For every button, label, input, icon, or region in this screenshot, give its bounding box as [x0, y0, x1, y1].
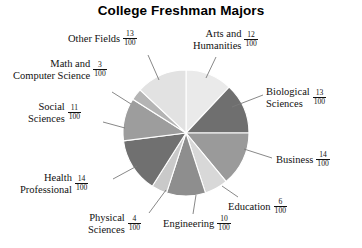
- slice-label-education: Education 6 100: [228, 198, 287, 215]
- pie-slices-group: [123, 70, 249, 196]
- slice-value-biological-sciences: 13 100: [313, 89, 326, 106]
- slice-value-other-fields: 13 100: [123, 30, 136, 47]
- slice-label-education-text: Education: [228, 201, 271, 213]
- slice-label-social-sciences-text: Social Sciences: [28, 101, 65, 124]
- slice-label-arts-and-humanities-text: Arts and Humanities: [193, 28, 241, 51]
- leader-line-math-and-computer-science: [112, 92, 131, 104]
- slice-value-health-professional: 14 100: [75, 175, 88, 192]
- slice-label-health-professional: Health Professional 14 100: [20, 172, 88, 195]
- leader-line-social-sciences: [103, 122, 125, 128]
- slice-value-arts-and-humanities: 12 100: [244, 31, 257, 48]
- slice-label-physical-sciences-text: Physical Sciences: [88, 212, 125, 235]
- slice-label-other-fields: Other Fields 13 100: [68, 30, 137, 47]
- leader-line-health-professional: [113, 166, 137, 179]
- slice-label-engineering: Engineering 10 100: [163, 215, 231, 232]
- slice-label-physical-sciences: Physical Sciences 4 100: [88, 212, 141, 235]
- slice-label-arts-and-humanities: Arts and Humanities 12 100: [193, 28, 258, 51]
- pie-chart-screenshot: College Freshman Majors Other Fields 13 …: [0, 0, 362, 248]
- leader-line-engineering: [193, 195, 196, 214]
- slice-label-biological-sciences-text: Biological Sciences: [266, 86, 310, 109]
- leader-line-business: [244, 149, 272, 158]
- slice-label-engineering-text: Engineering: [163, 218, 214, 230]
- slice-label-business-text: Business: [276, 154, 313, 166]
- leader-line-education: [222, 186, 238, 197]
- slice-label-other-fields-text: Other Fields: [68, 33, 120, 45]
- slice-label-math-and-computer-science: Math and Computer Science 3 100: [13, 58, 107, 81]
- slice-label-biological-sciences: Biological Sciences 13 100: [266, 86, 326, 109]
- slice-value-math-and-computer-science: 3 100: [93, 61, 106, 78]
- slice-value-education: 6 100: [274, 198, 287, 215]
- slice-value-engineering: 10 100: [217, 215, 230, 232]
- leader-line-other-fields: [148, 55, 159, 80]
- slice-value-physical-sciences: 4 100: [128, 215, 141, 232]
- slice-value-business: 14 100: [316, 151, 329, 168]
- slice-label-math-and-computer-science-text: Math and Computer Science: [13, 58, 90, 81]
- slice-value-social-sciences: 11 100: [68, 104, 81, 121]
- slice-label-business: Business 14 100: [276, 151, 330, 168]
- leader-line-physical-sciences: [149, 190, 166, 213]
- slice-label-health-professional-text: Health Professional: [20, 172, 72, 195]
- slice-label-social-sciences: Social Sciences 11 100: [28, 101, 81, 124]
- pie-chart-graphic: [0, 0, 362, 248]
